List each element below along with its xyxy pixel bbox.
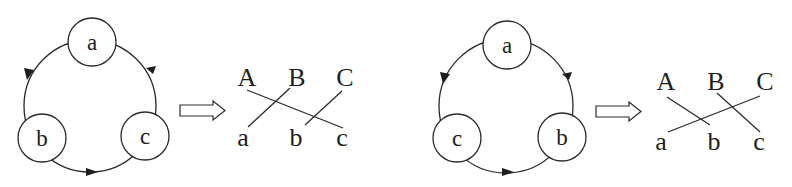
bottom-label-b: b (290, 123, 303, 152)
node-b: b (538, 113, 586, 161)
node-b: b (18, 114, 66, 162)
arrow-down-left-icon (440, 72, 450, 84)
right-correspondence: A B C a b c (655, 67, 773, 156)
top-label-A: A (657, 67, 676, 96)
node-a: a (68, 18, 116, 66)
bottom-label-a: a (655, 127, 667, 156)
bottom-label-a: a (237, 123, 249, 152)
left-cycle: a b c (18, 18, 169, 176)
arrow-right-bottom-icon (86, 168, 98, 176)
top-label-C: C (336, 63, 353, 92)
node-c: c (121, 112, 169, 160)
top-label-B: B (288, 63, 305, 92)
implies-arrow-icon (180, 101, 225, 120)
bottom-label-b: b (708, 127, 721, 156)
edge-B-a (248, 88, 290, 127)
right-panel: a c b A B C a b c (433, 21, 774, 176)
implies-arrow-icon (596, 102, 641, 121)
left-panel: a b c A B C a b c (18, 18, 354, 176)
top-label-C: C (756, 67, 773, 96)
diagram-canvas: a b c A B C a b c (0, 0, 792, 187)
node-label: b (36, 126, 48, 151)
left-correspondence: A B C a b c (237, 63, 353, 152)
top-label-A: A (238, 63, 257, 92)
node-label: a (87, 30, 97, 55)
node-a: a (483, 21, 531, 69)
top-label-B: B (707, 67, 724, 96)
edge-A-b (667, 97, 710, 125)
node-label: b (556, 125, 568, 150)
node-c: c (433, 114, 481, 162)
arrow-right-bottom-icon (502, 168, 514, 176)
node-label: c (140, 124, 150, 149)
node-label: a (502, 33, 512, 58)
right-cycle: a c b (433, 21, 586, 176)
node-label: c (452, 126, 462, 151)
